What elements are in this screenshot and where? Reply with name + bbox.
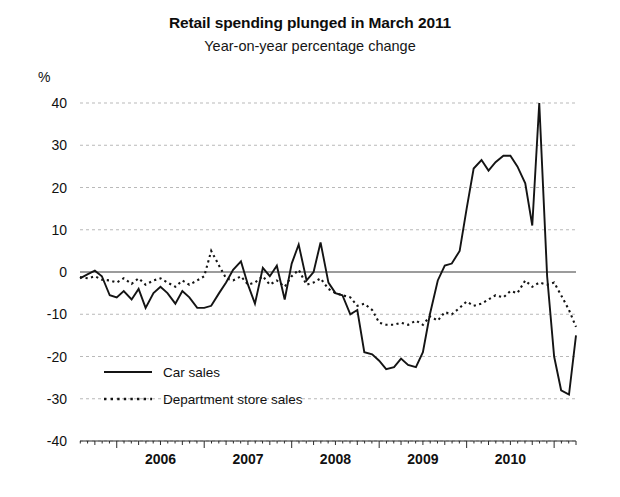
data-series [80,103,576,395]
y-axis-tick-label: -20 [47,349,67,365]
x-axis-tick-label: 2008 [320,451,351,467]
y-axis-tick-label: 0 [59,264,67,280]
y-axis-unit-label: % [38,69,50,85]
y-axis-tick-label: -10 [47,306,67,322]
y-axis-tick-label: 30 [51,137,67,153]
chart-subtitle: Year-on-year percentage change [0,38,620,54]
y-axis-tick-label: -30 [47,391,67,407]
y-axis-tick-label: -40 [47,433,67,449]
chart-plot-area: 403020100-10-20-30-40 200620072008200920… [0,0,620,497]
series-line-car-sales [80,103,576,395]
legend-label: Car sales [163,365,220,380]
legend-label: Department store sales [163,392,303,407]
x-axis-tick-label: 2010 [495,451,526,467]
chart-container: Retail spending plunged in March 2011 Ye… [0,0,620,497]
x-axis-tick-label: 2006 [145,451,176,467]
y-axis-tick-label: 10 [51,222,67,238]
y-axis-tick-labels: 403020100-10-20-30-40 [47,95,67,449]
x-axis [80,441,576,448]
chart-legend: Car salesDepartment store sales [104,365,303,407]
chart-title: Retail spending plunged in March 2011 [0,14,620,32]
y-axis-tick-label: 20 [51,180,67,196]
y-axis-tick-label: 40 [51,95,67,111]
x-axis-tick-label: 2009 [407,451,438,467]
series-line-department-store-sales [80,251,576,327]
gridlines [80,103,576,441]
x-axis-tick-label: 2007 [232,451,263,467]
x-axis-tick-labels: 20062007200820092010 [145,451,526,467]
